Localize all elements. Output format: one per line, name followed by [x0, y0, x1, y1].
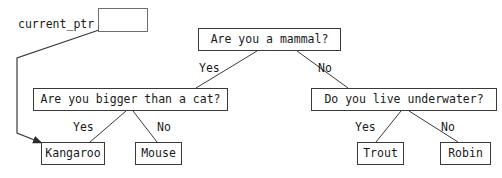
node-bigger-than-cat: Are you bigger than a cat? [33, 88, 228, 111]
node-label: Kangaroo [45, 148, 100, 160]
edge-label-cat-yes: Yes [73, 122, 94, 134]
node-label: Trout [363, 148, 398, 160]
edge-cat-no [133, 111, 157, 142]
edge-label-water-yes: Yes [355, 122, 376, 134]
edge-label-water-no: No [441, 122, 455, 134]
node-live-underwater: Do you live underwater? [311, 88, 497, 111]
node-label: Do you live underwater? [324, 94, 483, 106]
edge-label-root-no: No [318, 63, 332, 75]
edge-cat-yes [90, 111, 126, 142]
node-label: Robin [448, 148, 483, 160]
node-mouse: Mouse [135, 142, 182, 165]
node-label: Are you a mammal? [211, 34, 329, 46]
node-kangaroo: Kangaroo [41, 142, 105, 165]
decision-tree-diagram: current_ptr Are you a mammal?Are you big… [0, 0, 502, 178]
node-label: Are you bigger than a cat? [40, 94, 220, 106]
edge-label-cat-no: No [157, 122, 171, 134]
node-robin: Robin [440, 142, 491, 165]
node-trout: Trout [357, 142, 404, 165]
edge-label-root-yes: Yes [199, 63, 220, 75]
current-ptr-variable-label: current_ptr [18, 19, 94, 31]
node-root-mammal: Are you a mammal? [198, 28, 341, 51]
node-label: Mouse [141, 148, 176, 160]
current-ptr-box [98, 8, 148, 32]
edge-water-yes [376, 111, 401, 142]
